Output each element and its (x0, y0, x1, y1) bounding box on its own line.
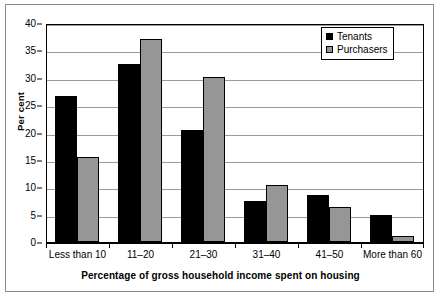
y-tick-mark-5 (37, 215, 42, 216)
x-axis-tick-marks (46, 243, 424, 248)
x-tick-mark-0 (46, 243, 47, 248)
y-tick-label-30: 30 (25, 74, 36, 84)
legend-item-tenants: Tenants (326, 30, 388, 43)
bar-purchasers-3 (266, 185, 288, 242)
bar-tenants-4 (307, 195, 329, 242)
bar-group (173, 25, 236, 242)
y-tick-label-20: 20 (25, 129, 36, 139)
y-tick-mark-30 (37, 78, 42, 79)
legend-label-tenants: Tenants (337, 32, 372, 42)
x-tick-mark-4 (298, 243, 299, 248)
bar-purchasers-5 (392, 236, 414, 242)
x-tick-label-5: More than 60 (363, 249, 422, 261)
x-tick-mark-2 (172, 243, 173, 248)
bar-tenants-1 (118, 64, 140, 242)
y-tick-label-40: 40 (25, 19, 36, 29)
y-tick-label-10: 10 (25, 183, 36, 193)
legend-swatch-purchasers (326, 46, 333, 53)
y-tick-mark-10 (37, 188, 42, 189)
bar-tenants-2 (181, 130, 203, 242)
bar-purchasers-1 (140, 39, 162, 242)
x-axis-title: Percentage of gross household income spe… (0, 270, 441, 281)
x-tick-label-0: Less than 10 (49, 249, 106, 261)
y-tick-mark-0 (37, 243, 42, 244)
y-tick-label-35: 35 (25, 46, 36, 56)
y-tick-mark-35 (37, 51, 42, 52)
x-tick-label-3: 31–40 (253, 249, 281, 261)
bar-group (110, 25, 173, 242)
bar-tenants-0 (55, 96, 77, 242)
legend-swatch-tenants (326, 33, 333, 40)
x-tick-mark-5 (361, 243, 362, 248)
bar-purchasers-4 (329, 207, 351, 242)
y-tick-mark-20 (37, 133, 42, 134)
y-tick-label-5: 5 (30, 211, 36, 221)
chart-figure: Per cent 4035302520151050 Less than 1011… (0, 0, 441, 299)
y-tick-mark-40 (37, 24, 42, 25)
y-tick-label-15: 15 (25, 156, 36, 166)
bar-purchasers-0 (77, 157, 99, 242)
x-tick-mark-1 (109, 243, 110, 248)
x-tick-mark-3 (235, 243, 236, 248)
bar-group (236, 25, 299, 242)
y-tick-label-0: 0 (30, 238, 36, 248)
y-axis-tick-labels: 4035302520151050 (0, 24, 42, 243)
legend-label-purchasers: Purchasers (337, 45, 388, 55)
bar-group (47, 25, 110, 242)
y-tick-mark-25 (37, 106, 42, 107)
bar-tenants-5 (370, 215, 392, 242)
x-tick-mark-6 (423, 243, 424, 248)
legend-item-purchasers: Purchasers (326, 43, 388, 56)
x-tick-label-1: 11–20 (127, 249, 154, 261)
chart-legend: TenantsPurchasers (321, 27, 394, 60)
bar-tenants-3 (244, 201, 266, 242)
x-tick-label-4: 41–50 (316, 249, 344, 261)
y-tick-label-25: 25 (25, 101, 36, 111)
x-axis-tick-labels: Less than 1011–2021–3031–4041–50More tha… (46, 249, 424, 265)
y-tick-mark-15 (37, 160, 42, 161)
bar-purchasers-2 (203, 77, 225, 242)
x-tick-label-2: 21–30 (190, 249, 218, 261)
